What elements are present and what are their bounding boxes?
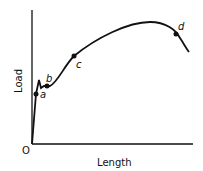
point-b-marker	[45, 84, 50, 89]
point-d-label: d	[178, 21, 185, 32]
point-a-marker	[34, 92, 39, 97]
point-c-marker	[72, 54, 77, 59]
point-c-label: c	[76, 59, 82, 70]
load-length-diagram: a b c d O Length Load	[0, 0, 203, 171]
point-d-marker	[174, 32, 179, 37]
y-axis-label: Load	[13, 69, 24, 93]
point-b-label: b	[46, 73, 52, 84]
x-axis-label: Length	[97, 157, 132, 168]
point-a-label: a	[40, 89, 46, 100]
origin-label: O	[22, 145, 30, 156]
load-curve	[32, 22, 189, 144]
